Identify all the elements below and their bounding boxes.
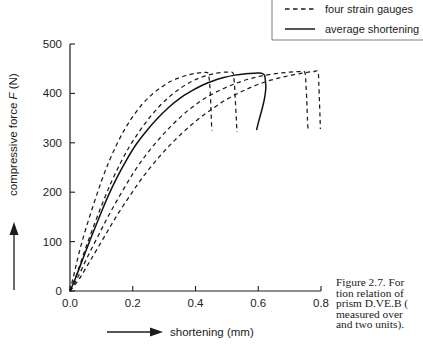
- y-axis-title: compressive force F (N): [7, 73, 19, 196]
- figure-caption: Figure 2.7. For tion relation of prism D…: [336, 277, 408, 330]
- y-axis-ticks: [70, 44, 75, 291]
- chart-legend: four strain gauges average shortening: [272, 0, 423, 40]
- legend-label-four-strain-gauges: four strain gauges: [325, 3, 414, 15]
- y-tick-label: 300: [43, 137, 62, 149]
- x-tick-label: 0.0: [62, 297, 78, 309]
- curve-strain-gauge-2: [70, 72, 237, 291]
- y-tick-label: 500: [43, 38, 62, 50]
- curve-strain-gauge-3: [70, 71, 308, 291]
- figure-container: 0100200300400500 0.00.20.40.60.8 compres…: [0, 0, 423, 348]
- y-axis-tick-labels: 0100200300400500: [43, 38, 62, 297]
- y-tick-label: 100: [43, 236, 62, 248]
- y-tick-label: 200: [43, 186, 62, 198]
- curve-average-shortening: [70, 73, 266, 291]
- x-axis-title: shortening (mm): [170, 326, 254, 338]
- y-tick-label: 400: [43, 87, 62, 99]
- caption-line: and two units).: [336, 319, 408, 330]
- caption-line: Figure 2.7. For: [336, 277, 408, 288]
- legend-label-average-shortening: average shortening: [325, 23, 419, 35]
- data-curves: [70, 71, 320, 291]
- y-axis-arrow-icon: [10, 222, 19, 290]
- x-axis-arrow-icon: [107, 328, 163, 337]
- x-tick-label: 0.4: [188, 297, 205, 309]
- x-tick-label: 0.2: [125, 297, 141, 309]
- x-tick-label: 0.6: [250, 297, 266, 309]
- x-tick-label: 0.8: [313, 297, 329, 309]
- curve-strain-gauge-4: [70, 71, 320, 291]
- x-axis-tick-labels: 0.00.20.40.60.8: [62, 297, 329, 309]
- y-tick-label: 0: [56, 285, 62, 297]
- x-axis-ticks: [70, 286, 321, 291]
